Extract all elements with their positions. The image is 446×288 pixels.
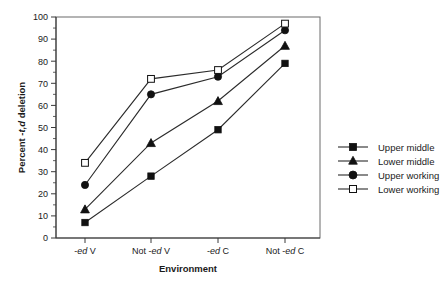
y-tick-label: 70 (38, 79, 48, 89)
x-axis-title: Environment (159, 263, 218, 274)
legend-marker-open-square (350, 186, 357, 193)
x-tick-label: Not -ed V (132, 246, 170, 256)
x-axis-ticks (85, 238, 285, 243)
y-tick-label: 10 (38, 211, 48, 221)
y-axis-title-pre: Percent - (16, 133, 27, 174)
line-chart: 100 90 80 70 60 50 40 30 20 10 0 Percent… (0, 0, 446, 288)
legend-marker-filled-circle (349, 171, 357, 179)
x-tick-label: -ed V (74, 246, 96, 256)
y-axis-title-post: deletion (16, 82, 27, 121)
data-point-filled-circle (147, 91, 154, 98)
legend-label: Upper middle (378, 142, 435, 153)
x-tick-label: Not -ed C (266, 246, 305, 256)
series-lower-middle (81, 41, 290, 213)
legend-marker-filled-square (350, 144, 357, 151)
data-point-filled-square (215, 127, 221, 133)
x-axis-tick-labels: -ed V Not -ed V -ed C Not -ed C (74, 246, 305, 256)
y-axis-tick-labels: 100 90 80 70 60 50 40 30 20 10 0 (33, 12, 48, 243)
series-upper-working (81, 27, 288, 189)
y-tick-label: 100 (33, 12, 48, 22)
y-tick-label: 40 (38, 145, 48, 155)
data-point-open-square (215, 67, 222, 74)
legend-label: Lower middle (378, 156, 435, 167)
y-axis-title-italic: t,d (16, 121, 27, 133)
data-point-open-square (148, 75, 155, 82)
x-tick-label: -ed C (207, 246, 230, 256)
y-tick-label: 20 (38, 189, 48, 199)
legend-item-lower-working: Lower working (338, 184, 439, 195)
legend-item-upper-working: Upper working (338, 170, 439, 181)
y-tick-label: 60 (38, 101, 48, 111)
legend-label: Upper working (378, 170, 439, 181)
data-point-filled-circle (81, 181, 88, 188)
legend-item-lower-middle: Lower middle (338, 156, 435, 167)
legend: Upper middle Lower middle Upper working … (338, 142, 439, 195)
data-point-filled-circle (281, 27, 288, 34)
chart-figure: 100 90 80 70 60 50 40 30 20 10 0 Percent… (0, 0, 446, 288)
data-point-filled-square (148, 173, 154, 179)
data-point-filled-square (82, 219, 88, 225)
data-point-filled-circle (214, 73, 221, 80)
series-lower-working (82, 20, 289, 166)
data-series-layer (81, 20, 290, 226)
y-tick-label: 80 (38, 57, 48, 67)
data-point-filled-square (282, 60, 288, 66)
series-line (85, 30, 285, 185)
y-tick-label: 50 (38, 123, 48, 133)
legend-label: Lower working (378, 184, 439, 195)
legend-item-upper-middle: Upper middle (338, 142, 435, 153)
data-point-filled-triangle (147, 139, 156, 147)
y-tick-label: 0 (43, 233, 48, 243)
data-point-open-square (282, 20, 289, 27)
data-point-open-square (82, 159, 89, 166)
y-axis-title: Percent -t,d deletion (16, 82, 27, 174)
y-tick-label: 30 (38, 167, 48, 177)
data-point-filled-triangle (281, 41, 290, 49)
series-line (85, 46, 285, 210)
y-tick-label: 90 (38, 34, 48, 44)
legend-marker-filled-triangle (349, 156, 358, 164)
